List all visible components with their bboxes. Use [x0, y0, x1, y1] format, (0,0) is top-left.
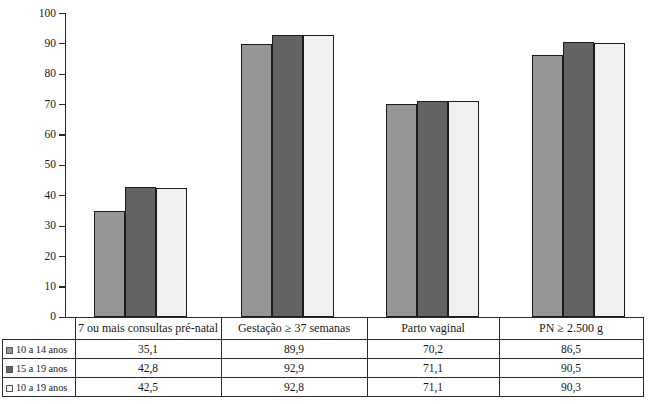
- table-cell: 92,9: [221, 359, 367, 378]
- legend-label: 10 a 19 anos: [16, 382, 67, 393]
- source-note: [3, 394, 303, 404]
- table-cell: 70,2: [367, 340, 499, 359]
- table-header-row: 7 ou mais consultas pré-natalGestação ≥ …: [3, 318, 644, 340]
- table-row: 15 a 19 anos42,892,971,190,5: [3, 359, 644, 378]
- data-table: 7 ou mais consultas pré-natalGestação ≥ …: [2, 317, 644, 397]
- table-cell: 71,1: [367, 359, 499, 378]
- table-cell: 86,5: [499, 340, 643, 359]
- table-cell: 90,3: [499, 378, 643, 397]
- legend-swatch-icon: [6, 366, 13, 373]
- table-column-header: PN ≥ 2.500 g: [499, 318, 643, 340]
- bar: [594, 43, 625, 317]
- table-column-header: Gestação ≥ 37 semanas: [221, 318, 367, 340]
- bar: [125, 187, 156, 317]
- table-cell: 90,5: [499, 359, 643, 378]
- bar: [303, 35, 334, 317]
- legend-row-2[interactable]: 15 a 19 anos: [3, 359, 76, 378]
- legend-swatch-icon: [6, 385, 13, 392]
- legend-swatch-icon: [6, 347, 13, 354]
- table-cell: 42,8: [75, 359, 221, 378]
- table-corner-cell: [3, 318, 76, 340]
- table-cell: 89,9: [221, 340, 367, 359]
- plot-area: 1009080706050403020100: [0, 0, 657, 320]
- bars-layer: [0, 0, 657, 317]
- bar: [532, 55, 563, 318]
- legend-label: 10 a 14 anos: [16, 344, 67, 355]
- table-column-header: Parto vaginal: [367, 318, 499, 340]
- legend-row-1[interactable]: 10 a 14 anos: [3, 340, 76, 359]
- bar: [563, 42, 594, 317]
- bar: [241, 44, 272, 317]
- bar: [94, 211, 125, 318]
- bar: [448, 101, 479, 317]
- table-column-header: 7 ou mais consultas pré-natal: [75, 318, 221, 340]
- table-cell: 35,1: [75, 340, 221, 359]
- table-cell: 71,1: [367, 378, 499, 397]
- legend-label: 15 a 19 anos: [16, 363, 67, 374]
- table-row: 10 a 14 anos35,189,970,286,5: [3, 340, 644, 359]
- bar-chart-figure: 1009080706050403020100 7 ou mais consult…: [0, 0, 657, 404]
- bar: [156, 188, 187, 317]
- bar: [386, 104, 417, 317]
- bar: [417, 101, 448, 317]
- bar: [272, 35, 303, 317]
